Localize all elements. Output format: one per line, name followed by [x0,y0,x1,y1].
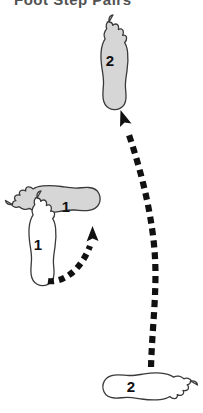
arrow-step-2-path [128,132,155,367]
footprint-shaded-2-top: 2 [101,15,128,110]
footprint-label: 2 [106,52,114,69]
figure-canvas: Foot Step Pairs 2 1 1 2 [0,0,203,413]
footprint-label: 1 [62,198,70,215]
foot-outline-shaded-1-left [6,186,101,213]
arrow-step-2-head [120,110,132,127]
footprint-open-2-bottom: 2 [103,373,198,400]
arrow-step-2 [120,110,155,367]
foot-outline-open-2-bottom [103,373,198,400]
footprint-label: 1 [34,236,42,253]
arrow-step-1-head [87,226,99,241]
footprint-label: 2 [127,378,135,395]
footprint-shaded-1-left: 1 [6,186,101,215]
footstep-diagram: 2 1 1 2 [0,0,203,413]
